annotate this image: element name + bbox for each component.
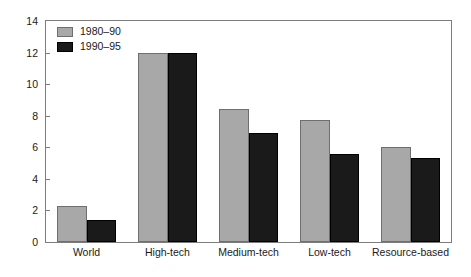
bar xyxy=(138,53,168,242)
legend-item: 1980–90 xyxy=(57,26,121,37)
bar xyxy=(219,109,249,242)
bar xyxy=(249,133,279,242)
bar xyxy=(168,53,198,242)
y-axis-tick-label: 4 xyxy=(32,174,38,185)
bar xyxy=(87,220,117,242)
legend-label: 1990–95 xyxy=(80,41,121,52)
y-axis-tick-label: 12 xyxy=(26,47,38,58)
bar xyxy=(300,120,330,242)
x-axis-tick-label: World xyxy=(73,247,100,258)
bar-group xyxy=(370,21,451,242)
y-axis-tick-label: 14 xyxy=(26,16,38,27)
bar xyxy=(57,206,87,242)
bar-group xyxy=(289,21,370,242)
bar xyxy=(381,147,411,242)
y-axis-tick-label: 10 xyxy=(26,79,38,90)
bar xyxy=(411,158,441,242)
y-axis-tick-label: 2 xyxy=(32,205,38,216)
x-axis-tick-label: Resource-based xyxy=(372,247,449,258)
legend-item: 1990–95 xyxy=(57,41,121,52)
legend: 1980–901990–95 xyxy=(57,26,121,56)
x-axis-tick-label: Medium-tech xyxy=(218,247,279,258)
y-axis: 02468101214 xyxy=(0,20,38,243)
x-axis-tick-label: Low-tech xyxy=(308,247,351,258)
legend-swatch-icon xyxy=(57,42,73,52)
bar-group xyxy=(127,21,208,242)
y-axis-tick-label: 8 xyxy=(32,110,38,121)
x-axis: WorldHigh-techMedium-techLow-techResourc… xyxy=(46,247,451,269)
bar-chart: 02468101214 WorldHigh-techMedium-techLow… xyxy=(0,0,471,277)
x-axis-tick-label: High-tech xyxy=(145,247,190,258)
legend-label: 1980–90 xyxy=(80,26,121,37)
y-axis-tick-label: 6 xyxy=(32,142,38,153)
y-axis-tick-label: 0 xyxy=(32,237,38,248)
bar xyxy=(330,154,360,242)
bar-group xyxy=(208,21,289,242)
legend-swatch-icon xyxy=(57,27,73,37)
